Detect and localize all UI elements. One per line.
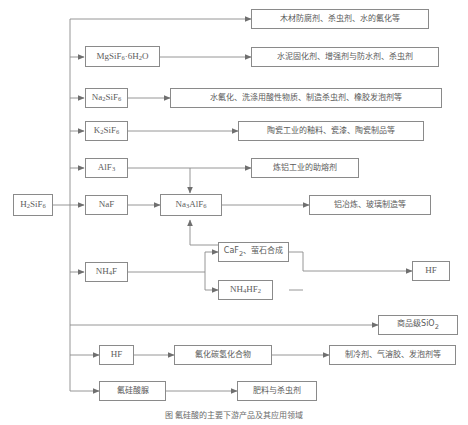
app-water-fluoridation-label: 水氟化、洗涤用酸性物质、制造杀虫剂、橡胶发泡剂等 — [210, 94, 402, 102]
app-fertilizer: 肥料与杀虫剂 — [237, 381, 317, 401]
flowchart-canvas: H2SiF6 MgSiF6·6H2O Na2SiF6 K2SiF6 AlF3 N… — [0, 0, 468, 425]
app-wood-preservative-label: 木材防腐剂、杀虫剂、水的氟化等 — [280, 15, 400, 23]
node-na3alf6-label: Na3AlF6 — [175, 200, 206, 210]
node-naf-label: NaF — [99, 200, 115, 209]
app-wood-preservative: 木材防腐剂、杀虫剂、水的氟化等 — [251, 9, 429, 29]
node-alf3: AlF3 — [85, 158, 128, 178]
app-cement-additive: 水泥固化剂、增强剂与防水剂、杀虫剂 — [251, 47, 439, 67]
app-ceramics-label: 陶瓷工业的釉料、瓷漆、陶瓷制品等 — [267, 127, 395, 135]
node-nh4hf2: NH4HF2 — [218, 280, 273, 300]
app-smelting-glass-label: 铝冶炼、玻璃制造等 — [334, 201, 406, 209]
node-h2sif6-label: H2SiF6 — [20, 200, 46, 210]
node-nh4f: NH4F — [85, 262, 128, 282]
node-mgsif6-label: MgSiF6·6H2O — [96, 52, 148, 62]
app-refrigerant-label: 制冷剂、气溶胶、发泡剂等 — [345, 351, 441, 359]
node-naf: NaF — [85, 195, 128, 215]
node-h2sif6: H2SiF6 — [13, 194, 53, 216]
node-fluorosilicic-urea: 氟硅酸脲 — [99, 381, 166, 401]
node-hf-lower-label: HF — [111, 350, 123, 359]
node-na2sif6-label: Na2SiF6 — [92, 93, 122, 103]
node-k2sif6-label: K2SiF6 — [94, 126, 120, 136]
app-water-fluoridation: 水氟化、洗涤用酸性物质、制造杀虫剂、橡胶发泡剂等 — [170, 88, 442, 108]
app-aluminium-flux: 炼铝工业的助熔剂 — [251, 158, 359, 178]
node-nh4f-label: NH4F — [96, 267, 117, 277]
node-caf2-label: CaF2、萤石合成 — [224, 247, 283, 258]
app-ceramics: 陶瓷工业的釉料、瓷漆、陶瓷制品等 — [238, 121, 424, 141]
node-nh4hf2-label: NH4HF2 — [230, 285, 261, 295]
figure-caption: 图 氟硅酸的主要下游产品及其应用领域 — [0, 409, 468, 420]
app-fertilizer-label: 肥料与杀虫剂 — [253, 387, 301, 395]
node-fluorocarbon-label: 氟化碳氢化合物 — [195, 351, 251, 359]
node-hf-right: HF — [412, 261, 450, 281]
node-caf2-fluorite: CaF2、萤石合成 — [218, 242, 289, 262]
node-mgsif6: MgSiF6·6H2O — [85, 46, 160, 67]
node-alf3-label: AlF3 — [98, 163, 115, 173]
node-hf-lower: HF — [99, 345, 134, 365]
app-commercial-silica: 商品级SiO2 — [378, 315, 458, 335]
node-k2sif6: K2SiF6 — [85, 121, 128, 141]
app-smelting-glass: 铝冶炼、玻璃制造等 — [309, 195, 431, 215]
app-refrigerant: 制冷剂、气溶胶、发泡剂等 — [329, 345, 456, 365]
app-aluminium-flux-label: 炼铝工业的助熔剂 — [273, 164, 337, 172]
app-commercial-silica-label: 商品级SiO2 — [397, 320, 439, 331]
node-na2sif6: Na2SiF6 — [85, 88, 128, 108]
node-fluorocarbon: 氟化碳氢化合物 — [174, 345, 272, 365]
node-hf-right-label: HF — [425, 266, 437, 275]
node-na3alf6: Na3AlF6 — [160, 194, 222, 216]
app-cement-additive-label: 水泥固化剂、增强剂与防水剂、杀虫剂 — [277, 53, 413, 61]
node-fluorosilicic-urea-label: 氟硅酸脲 — [117, 387, 149, 395]
